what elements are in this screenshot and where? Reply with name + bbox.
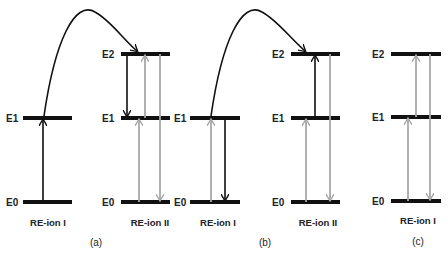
panel-tag: (a) [90,237,102,248]
level-label-e2: E2 [102,49,115,60]
panel-tag: (b) [259,237,271,248]
energy-transfer-arrow [44,10,137,116]
panel-b: E1 E0 RE-ion I E2 E1 E0 RE-ion II (b) [174,10,340,248]
level-label-e1: E1 [372,112,385,123]
level-label-e1: E1 [272,113,285,124]
level-label-e1: E1 [102,113,115,124]
level-label-e0: E0 [272,197,285,208]
panel-b-ion-2: E2 E1 E0 RE-ion II [272,49,340,228]
level-label-e2: E2 [272,49,285,60]
level-label-e0: E0 [174,197,187,208]
level-label-e0: E0 [102,197,115,208]
panel-b-ion-1: E1 E0 RE-ion I [174,113,240,228]
panel-a-ion-1: E1 E0 RE-ion I [6,113,72,228]
panel-c-ion-1: E2 E1 E0 RE-ion I [372,49,441,226]
level-label-e2: E2 [372,49,385,60]
panel-c: E2 E1 E0 RE-ion I (c) [372,49,441,247]
level-label-e1: E1 [174,113,187,124]
ion-label: RE-ion I [30,217,66,228]
ion-label: RE-ion II [131,217,170,228]
ion-label: RE-ion I [200,217,236,228]
level-label-e0: E0 [6,197,19,208]
level-label-e1: E1 [6,113,19,124]
panel-a: E1 E0 RE-ion I E2 E1 E0 RE-ion II (a) [6,10,170,248]
ion-label: RE-ion I [400,215,436,226]
energy-transfer-arrow [211,10,305,116]
panel-a-ion-2: E2 E1 E0 RE-ion II [102,49,170,228]
ion-label: RE-ion II [299,217,338,228]
panel-tag: (c) [412,236,424,247]
energy-level-diagram: E1 E0 RE-ion I E2 E1 E0 RE-ion II (a) E [0,0,448,255]
level-label-e0: E0 [372,196,385,207]
